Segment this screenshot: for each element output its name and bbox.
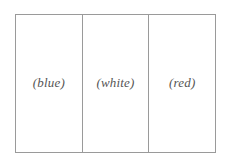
stripe-label-red: (red) [169,75,196,91]
flag-outline: (blue) (white) (red) [15,14,216,153]
stripe-label-white: (white) [96,75,134,91]
stripe-blue: (blue) [16,15,82,152]
stripe-label-blue: (blue) [33,75,65,91]
stripe-red: (red) [148,15,215,152]
stripe-white: (white) [82,15,149,152]
